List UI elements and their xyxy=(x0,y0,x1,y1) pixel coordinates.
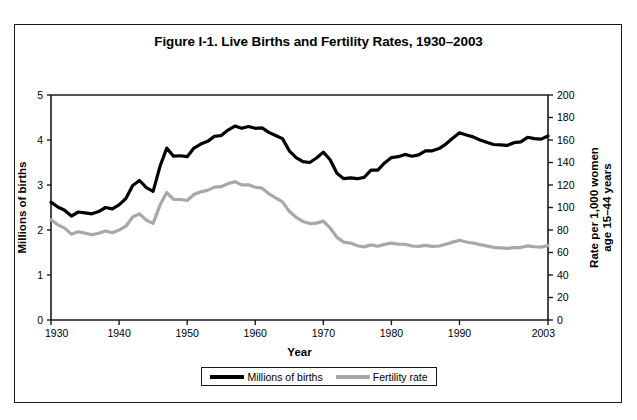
series-line-millions-of-births xyxy=(51,126,548,216)
x-tick-label: 1980 xyxy=(380,327,404,339)
y-left-tick-label: 0 xyxy=(37,314,43,326)
y-right-tick-label: 40 xyxy=(557,269,569,281)
legend-swatch-fertility-rate-icon xyxy=(336,375,370,379)
y-right-tick-label: 140 xyxy=(557,156,575,168)
y-left-tick-label: 3 xyxy=(37,179,43,191)
figure-container: Figure I-1. Live Births and Fertility Ra… xyxy=(0,0,637,420)
y-right-tick-label: 160 xyxy=(557,134,575,146)
x-tick-label: 1930 xyxy=(45,327,69,339)
chart-legend: Millions of births Fertility rate xyxy=(201,367,437,386)
y-axis-right-title: Rate per 1,000 women xyxy=(588,147,600,268)
y-right-tick-label: 180 xyxy=(557,111,575,123)
y-axis-left-title: Millions of births xyxy=(16,162,28,254)
x-tick-label: 1970 xyxy=(312,327,336,339)
x-axis-title: Year xyxy=(287,346,312,358)
y-right-tick-label: 20 xyxy=(557,291,569,303)
y-right-tick-label: 100 xyxy=(557,201,575,213)
y-left-tick-label: 2 xyxy=(37,224,43,236)
legend-item-births: Millions of births xyxy=(210,371,322,383)
y-right-tick-label: 120 xyxy=(557,179,575,191)
x-tick-label: 1960 xyxy=(244,327,268,339)
legend-label-millions-of-births: Millions of births xyxy=(247,371,322,383)
y-right-tick-label: 80 xyxy=(557,224,569,236)
y-right-tick-label: 200 xyxy=(557,89,575,101)
y-left-tick-label: 4 xyxy=(37,134,43,146)
x-tick-label: 1990 xyxy=(448,327,472,339)
legend-swatch-millions-of-births-icon xyxy=(210,375,244,379)
x-tick-label: 1950 xyxy=(175,327,199,339)
y-axis-right-title: age 15–44 years xyxy=(601,163,613,251)
series-line-fertility-rate xyxy=(51,182,548,249)
y-right-tick-label: 0 xyxy=(557,314,563,326)
legend-label-fertility-rate: Fertility rate xyxy=(373,371,428,383)
legend-item-fertility: Fertility rate xyxy=(336,371,428,383)
chart-plot-area: 0123450204060801001201401601802001930194… xyxy=(0,0,637,420)
x-tick-label: 2003 xyxy=(532,327,556,339)
y-left-tick-label: 1 xyxy=(37,269,43,281)
x-tick-label: 1940 xyxy=(107,327,131,339)
y-left-tick-label: 5 xyxy=(37,89,43,101)
y-right-tick-label: 60 xyxy=(557,246,569,258)
